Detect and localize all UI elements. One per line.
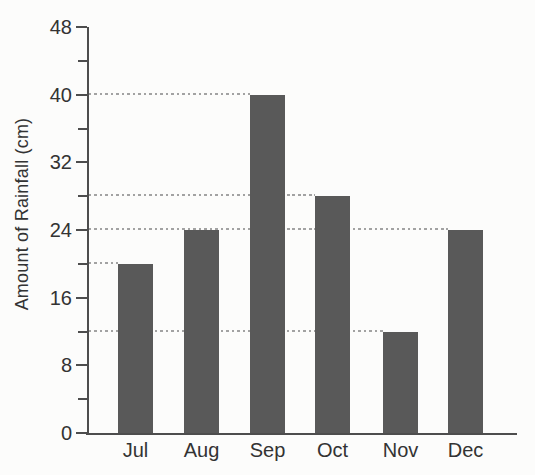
y-tick-label-32: 32 [32, 152, 72, 172]
y-tick-label-40: 40 [32, 85, 72, 105]
rainfall-bar-chart: Amount of Rainfall (cm) 081624324048JulA… [0, 0, 535, 475]
y-tick-label-0: 0 [32, 423, 72, 443]
y-major-tick-16 [76, 297, 87, 299]
y-tick-label-8: 8 [32, 355, 72, 375]
bar-oct [315, 196, 350, 433]
bar-sep [250, 95, 285, 433]
x-tick-label-dec: Dec [433, 440, 499, 460]
bar-nov [383, 332, 418, 434]
bar-jul [118, 264, 153, 433]
y-major-tick-32 [76, 161, 87, 163]
y-minor-tick-28 [78, 195, 87, 197]
x-tick-label-nov: Nov [368, 440, 434, 460]
y-axis-line [87, 27, 89, 435]
x-tick-label-sep: Sep [235, 440, 301, 460]
y-major-tick-40 [76, 94, 87, 96]
x-tick-label-jul: Jul [103, 440, 169, 460]
x-axis-line [86, 433, 517, 435]
dash-line-40 [89, 93, 250, 95]
bar-dec [448, 230, 483, 433]
x-tick-label-oct: Oct [300, 440, 366, 460]
y-tick-label-48: 48 [32, 17, 72, 37]
dash-line-20 [89, 262, 118, 264]
y-major-tick-8 [76, 364, 87, 366]
y-major-tick-0 [76, 432, 87, 434]
y-major-tick-48 [76, 26, 87, 28]
y-minor-tick-44 [78, 60, 87, 62]
y-tick-label-16: 16 [32, 288, 72, 308]
y-tick-label-24: 24 [32, 220, 72, 240]
y-major-tick-24 [76, 229, 87, 231]
bar-aug [184, 230, 219, 433]
y-minor-tick-4 [78, 398, 87, 400]
y-axis-title: Amount of Rainfall (cm) [10, 94, 34, 334]
x-tick-label-aug: Aug [169, 440, 235, 460]
y-minor-tick-20 [78, 263, 87, 265]
y-minor-tick-12 [78, 331, 87, 333]
y-minor-tick-36 [78, 128, 87, 130]
